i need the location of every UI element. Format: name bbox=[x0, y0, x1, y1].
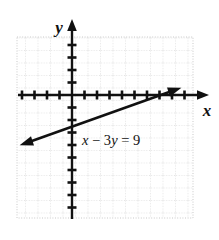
graph-figure: y x x − 3y = 9 bbox=[0, 0, 219, 240]
equation-term-middle: − 3 bbox=[88, 132, 111, 148]
grid-cells bbox=[17, 37, 193, 218]
x-axis-label: x bbox=[202, 101, 212, 120]
equation-annotation: x − 3y = 9 bbox=[81, 132, 140, 148]
coordinate-plane-svg: y x x − 3y = 9 bbox=[0, 0, 219, 240]
grid bbox=[17, 37, 193, 218]
equation-term-tail: = 9 bbox=[118, 132, 141, 148]
y-axis-label: y bbox=[53, 18, 63, 37]
